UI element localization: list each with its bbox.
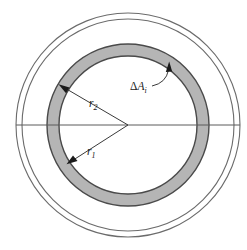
r1-label-subscript: 1: [91, 151, 95, 160]
r2-label: r2: [89, 97, 97, 112]
area-element-label: ΔAi: [130, 80, 147, 95]
r2-label-subscript: 2: [93, 103, 97, 112]
area-element-leader-line: [152, 70, 169, 86]
area-element-delta: Δ: [130, 80, 137, 92]
r1-leader-line: [73, 125, 129, 161]
annulus-diagram: r2 r1 ΔAi: [0, 0, 247, 250]
area-element-subscript: i: [144, 86, 146, 95]
figure-container: r2 r1 ΔAi: [0, 0, 247, 250]
r1-label: r1: [87, 145, 95, 160]
